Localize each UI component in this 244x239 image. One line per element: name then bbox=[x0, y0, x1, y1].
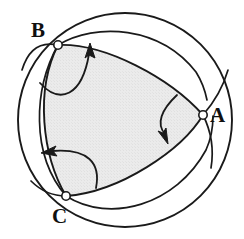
vertex-label-A: A bbox=[210, 105, 225, 126]
vertex-marker-B[interactable] bbox=[54, 41, 62, 49]
vertex-label-C: C bbox=[52, 206, 67, 227]
spherical-triangle-fill bbox=[44, 45, 203, 196]
vertex-label-B: B bbox=[31, 20, 45, 41]
vertex-marker-C[interactable] bbox=[62, 192, 70, 200]
spherical-triangle-figure: B A C bbox=[0, 0, 244, 239]
vertex-marker-A[interactable] bbox=[199, 111, 207, 119]
